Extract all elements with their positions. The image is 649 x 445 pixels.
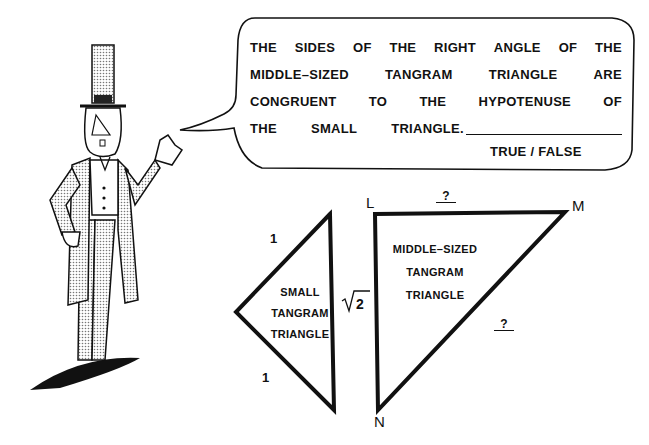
shadow [30,358,140,390]
cartoon-character [0,0,649,445]
right-arm [125,135,182,205]
top-hat-icon [80,45,126,106]
